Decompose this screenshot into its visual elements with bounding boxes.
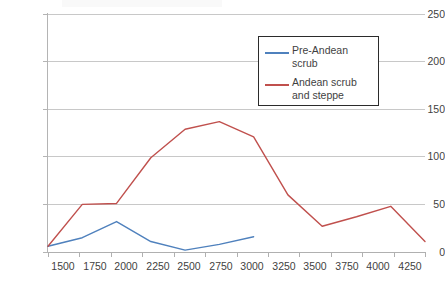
y-tick-mark-100 [43, 156, 48, 157]
x-tick-mark-3000 [237, 252, 238, 257]
legend-label-series-2: Andean scrub and steppe [292, 76, 357, 102]
x-tick-mark-2250 [142, 252, 143, 257]
legend-item-pre-andean-scrub: Pre-Andean scrub [265, 44, 348, 70]
x-tick-mark-2500 [174, 252, 175, 257]
x-tick-mark-1750 [79, 252, 80, 257]
x-tick-label-4250: 4250 [390, 261, 430, 272]
gridline-50 [48, 204, 425, 205]
line-chart: 250 200 150 100 50 0 1500 1750 2000 2250… [0, 0, 445, 283]
legend-label-series-1: Pre-Andean scrub [292, 44, 348, 70]
legend-item-andean-scrub-and-steppe: Andean scrub and steppe [265, 76, 357, 102]
chart-title-artifact [62, 0, 222, 7]
x-tick-mark-3250 [268, 252, 269, 257]
y-tick-mark-250 [43, 14, 48, 15]
x-tick-mark-3500 [299, 252, 300, 257]
legend-line-icon-series-2 [265, 79, 289, 90]
y-tick-mark-150 [43, 109, 48, 110]
y-tick-label-250: 250 [403, 9, 445, 19]
y-tick-label-200: 200 [403, 56, 445, 66]
x-tick-mark-2750 [205, 252, 206, 257]
y-tick-mark-200 [43, 61, 48, 62]
x-tick-mark-1500 [48, 252, 49, 257]
y-tick-label-0: 0 [403, 247, 445, 257]
gridline-150 [48, 109, 425, 110]
legend: Pre-Andean scrub Andean scrub and steppe [258, 36, 379, 106]
x-tick-mark-4250 [394, 252, 395, 257]
x-tick-mark-3750 [331, 252, 332, 257]
y-tick-mark-50 [43, 204, 48, 205]
y-tick-label-50: 50 [403, 199, 445, 209]
y-tick-label-100: 100 [403, 151, 445, 161]
gridline-100 [48, 156, 425, 157]
gridline-250 [48, 14, 425, 15]
y-axis-line [47, 13, 48, 253]
x-tick-mark-4000 [362, 252, 363, 257]
y-tick-label-150: 150 [403, 104, 445, 114]
x-tick-mark-end [425, 252, 426, 257]
x-tick-mark-2000 [111, 252, 112, 257]
legend-line-icon-series-1 [265, 47, 289, 58]
